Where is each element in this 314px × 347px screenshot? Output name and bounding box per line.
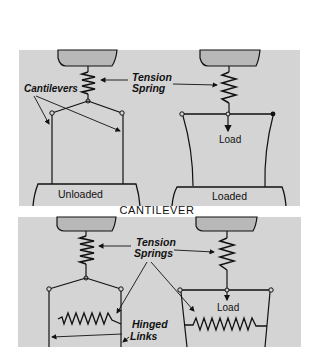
hinged-links-label-line2: Links bbox=[130, 330, 158, 342]
top-right-mount-block bbox=[200, 50, 260, 66]
bottom-right-horizontal-spring bbox=[184, 318, 267, 330]
tension-spring-arrow-right bbox=[173, 84, 217, 85]
tension-springs-arrow-right bbox=[174, 250, 214, 252]
top-left-mount-block bbox=[58, 50, 117, 66]
top-loaded-assembly bbox=[172, 50, 286, 206]
tension-springs-arrow-to-right-spring bbox=[151, 262, 194, 311]
bottom-unloaded-assembly bbox=[47, 217, 123, 347]
cantilever-diagram: Cantilevers Tension Spring Load Unloaded… bbox=[0, 0, 314, 347]
top-load-label: Load bbox=[219, 134, 241, 145]
bottom-right-mount-block bbox=[196, 217, 257, 231]
cantilevers-label: Cantilevers bbox=[24, 83, 78, 94]
unloaded-label: Unloaded bbox=[58, 188, 103, 200]
bottom-left-horizontal-spring bbox=[58, 313, 121, 324]
loaded-label: Loaded bbox=[212, 190, 247, 202]
bottom-left-mount-block bbox=[57, 217, 116, 231]
top-left-tension-spring bbox=[82, 72, 95, 94]
loaded-left-bent-cantilever bbox=[183, 116, 193, 186]
bottom-right-tension-spring bbox=[220, 238, 234, 270]
bottom-loaded-assembly bbox=[178, 217, 273, 347]
tension-spring-label-line2: Spring bbox=[132, 82, 166, 94]
tension-springs-label-line2: Springs bbox=[134, 247, 173, 259]
bottom-load-label: Load bbox=[217, 302, 239, 313]
hinged-links-arrow-right bbox=[123, 337, 129, 342]
top-right-tension-spring bbox=[222, 72, 236, 103]
hinged-links-arrow-left bbox=[52, 334, 122, 337]
cantilevers-arrow-right bbox=[36, 96, 120, 131]
loaded-right-bent-cantilever bbox=[265, 116, 273, 187]
cantilever-caption: CANTILEVER bbox=[0, 204, 314, 216]
bottom-left-tension-spring bbox=[80, 236, 94, 264]
top-unloaded-assembly bbox=[33, 50, 140, 206]
hinged-links-label-line1: Hinged bbox=[132, 318, 168, 330]
